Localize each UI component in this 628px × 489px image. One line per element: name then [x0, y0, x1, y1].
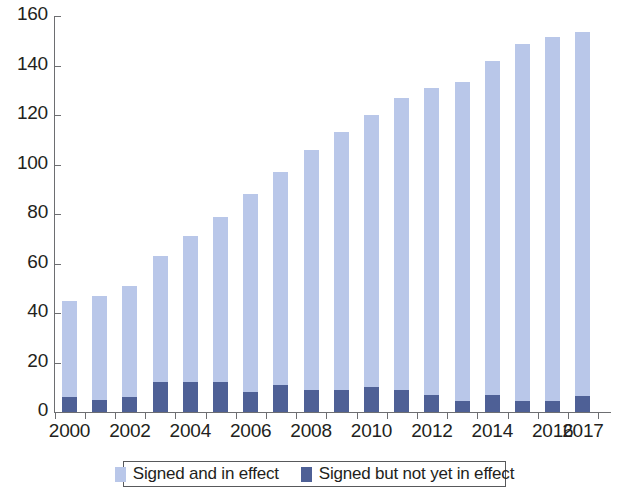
bar-segment-signed-and-in-effect — [92, 296, 107, 400]
x-axis-label: 2000 — [49, 420, 90, 442]
x-axis-label: 2002 — [109, 420, 150, 442]
x-axis-label: 2010 — [351, 420, 392, 442]
bar-segment-signed-but-not-yet-in-effect — [455, 401, 470, 412]
y-axis-label: 160 — [4, 3, 48, 25]
x-axis-label: 2017 — [562, 420, 603, 442]
bar-group — [394, 98, 409, 412]
x-axis-tick — [477, 412, 478, 419]
bar-group — [485, 61, 500, 412]
bar-segment-signed-but-not-yet-in-effect — [304, 390, 319, 412]
bar-group — [515, 44, 530, 412]
bar-group — [364, 115, 379, 412]
bar-group — [92, 296, 107, 412]
x-axis-tick — [357, 412, 358, 419]
bar-segment-signed-and-in-effect — [485, 61, 500, 395]
bar-segment-signed-but-not-yet-in-effect — [334, 390, 349, 412]
bar-group — [545, 37, 560, 412]
x-axis-tick — [296, 412, 297, 419]
bar-segment-signed-but-not-yet-in-effect — [485, 395, 500, 412]
bar-segment-signed-but-not-yet-in-effect — [545, 401, 560, 412]
x-axis-line — [54, 412, 611, 413]
x-axis-tick — [508, 412, 509, 419]
bar-segment-signed-but-not-yet-in-effect — [153, 382, 168, 412]
bar-segment-signed-but-not-yet-in-effect — [183, 382, 198, 412]
bar-segment-signed-but-not-yet-in-effect — [92, 400, 107, 412]
bar-group — [424, 88, 439, 412]
legend-label: Signed but not yet in effect — [319, 464, 514, 484]
x-axis-tick — [145, 412, 146, 419]
bar-segment-signed-and-in-effect — [394, 98, 409, 390]
y-axis-label: 120 — [4, 102, 48, 124]
y-axis-label: 100 — [4, 152, 48, 174]
x-axis-label: 2014 — [472, 420, 513, 442]
y-axis-label: 140 — [4, 53, 48, 75]
x-axis-tick — [538, 412, 539, 419]
x-axis-tick — [266, 412, 267, 419]
bar-segment-signed-but-not-yet-in-effect — [62, 397, 77, 412]
bar-segment-signed-and-in-effect — [334, 132, 349, 389]
x-axis-tick — [568, 412, 569, 419]
bar-chart: 020406080100120140160 200020022004200620… — [0, 0, 628, 489]
x-axis-tick — [206, 412, 207, 419]
x-axis-tick — [236, 412, 237, 419]
legend-item-signed-but-not-yet-in-effect: Signed but not yet in effect — [301, 464, 514, 484]
bar-segment-signed-and-in-effect — [153, 256, 168, 382]
x-axis-label: 2006 — [230, 420, 271, 442]
bar-segment-signed-and-in-effect — [515, 44, 530, 400]
plot-area — [54, 16, 610, 412]
legend-item-signed-and-in-effect: Signed and in effect — [115, 464, 279, 484]
bar-group — [304, 150, 319, 412]
bar-group — [122, 286, 137, 412]
bar-segment-signed-but-not-yet-in-effect — [213, 382, 228, 412]
bar-group — [575, 32, 590, 412]
bar-segment-signed-but-not-yet-in-effect — [424, 395, 439, 412]
x-axis-label: 2008 — [290, 420, 331, 442]
x-axis-tick — [326, 412, 327, 419]
y-axis-label: 80 — [4, 201, 48, 223]
bar-segment-signed-and-in-effect — [455, 82, 470, 401]
bar-group — [243, 194, 258, 412]
chart-legend: Signed and in effect Signed but not yet … — [123, 461, 506, 487]
bar-segment-signed-but-not-yet-in-effect — [273, 385, 288, 412]
x-axis-label: 2004 — [170, 420, 211, 442]
x-axis-tick — [598, 412, 599, 419]
y-axis-label: 20 — [4, 350, 48, 372]
x-axis-tick — [175, 412, 176, 419]
light-blue-swatch — [115, 467, 126, 482]
bar-segment-signed-and-in-effect — [424, 88, 439, 395]
bar-segment-signed-and-in-effect — [213, 217, 228, 383]
bar-segment-signed-and-in-effect — [575, 32, 590, 396]
bar-segment-signed-but-not-yet-in-effect — [243, 392, 258, 412]
x-axis-tick — [85, 412, 86, 419]
bar-segment-signed-and-in-effect — [243, 194, 258, 392]
y-axis-label: 40 — [4, 300, 48, 322]
bar-segment-signed-but-not-yet-in-effect — [364, 387, 379, 412]
bar-group — [455, 82, 470, 412]
bar-segment-signed-and-in-effect — [273, 172, 288, 385]
x-axis-tick — [417, 412, 418, 419]
bar-segment-signed-and-in-effect — [304, 150, 319, 390]
bar-group — [153, 256, 168, 412]
bar-segment-signed-and-in-effect — [545, 37, 560, 401]
bar-group — [183, 236, 198, 412]
bar-group — [62, 301, 77, 412]
bar-group — [334, 132, 349, 412]
bar-segment-signed-and-in-effect — [364, 115, 379, 387]
bar-segment-signed-and-in-effect — [62, 301, 77, 398]
bar-segment-signed-but-not-yet-in-effect — [515, 401, 530, 412]
bar-segment-signed-but-not-yet-in-effect — [575, 396, 590, 412]
legend-label: Signed and in effect — [133, 464, 279, 484]
x-axis-tick — [387, 412, 388, 419]
x-axis-tick — [115, 412, 116, 419]
bar-segment-signed-but-not-yet-in-effect — [394, 390, 409, 412]
dark-blue-swatch — [301, 467, 312, 482]
y-axis-label: 0 — [4, 399, 48, 421]
x-axis-label: 2012 — [411, 420, 452, 442]
bar-group — [273, 172, 288, 412]
bar-segment-signed-and-in-effect — [122, 286, 137, 397]
bar-segment-signed-and-in-effect — [183, 236, 198, 382]
x-axis-tick — [55, 412, 56, 419]
y-axis-label: 60 — [4, 251, 48, 273]
x-axis-tick — [447, 412, 448, 419]
bar-segment-signed-but-not-yet-in-effect — [122, 397, 137, 412]
